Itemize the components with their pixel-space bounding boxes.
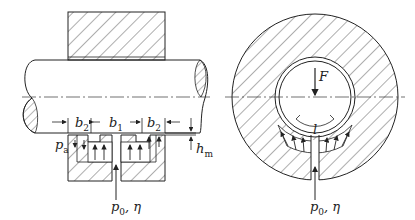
label-b1: b1: [109, 116, 123, 133]
label-supply-left: p0, η: [111, 200, 141, 217]
label-force: F: [319, 70, 328, 83]
longitudinal-section: [22, 12, 210, 200]
bearing-diagram: [0, 0, 415, 220]
lower-bearing-block: [68, 135, 165, 200]
cross-section: [225, 14, 405, 200]
label-b2-left: b2: [75, 116, 89, 133]
label-supply-right: p0, η: [310, 200, 340, 217]
label-hm: hm: [196, 142, 213, 159]
upper-bearing-block: [68, 12, 165, 60]
label-b2-right: b2: [147, 116, 161, 133]
label-pa: pa: [55, 138, 69, 155]
label-l: l: [313, 123, 317, 136]
